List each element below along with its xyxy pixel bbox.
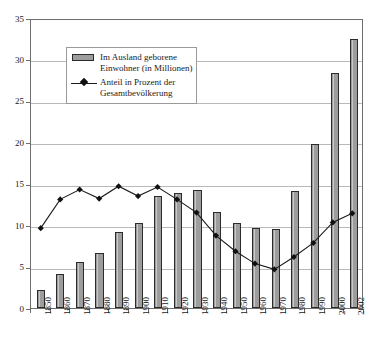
x-axis-tick-label-1990: 1990 bbox=[318, 297, 327, 315]
chart-container: 05101520253035 1850186018701880189019001… bbox=[0, 0, 369, 351]
x-axis-tick-label-1880: 1880 bbox=[103, 297, 112, 315]
y-axis-tick-label: 20 bbox=[2, 139, 24, 148]
x-axis-tick-label-1870: 1870 bbox=[83, 297, 92, 315]
x-axis-tick-label-1900: 1900 bbox=[142, 297, 151, 315]
x-axis-tick-label-1940: 1940 bbox=[220, 297, 229, 315]
x-axis-tick-label-1970: 1970 bbox=[279, 297, 288, 315]
y-axis-tick-label: 35 bbox=[2, 15, 24, 24]
legend-entry-bar: Im Ausland geborene Einwohner (in Millio… bbox=[71, 52, 193, 74]
line-marker-1860 bbox=[57, 196, 63, 202]
chart-legend: Im Ausland geborene Einwohner (in Millio… bbox=[66, 47, 197, 104]
line-marker-icon bbox=[71, 77, 97, 88]
legend-label-bar: Im Ausland geborene Einwohner (in Millio… bbox=[100, 52, 192, 74]
x-axis-tick-label-1860: 1860 bbox=[63, 297, 72, 315]
y-axis-tick-label: 5 bbox=[2, 263, 24, 272]
x-axis-tick-label-1980: 1980 bbox=[298, 297, 307, 315]
x-axis-tick-label-1890: 1890 bbox=[122, 297, 131, 315]
bar-swatch-icon bbox=[71, 52, 97, 63]
x-axis-tick-label-2000: 2000 bbox=[338, 297, 347, 315]
line-marker-1850 bbox=[38, 225, 44, 231]
line-marker-1920 bbox=[174, 196, 180, 202]
x-axis-tick-label-1850: 1850 bbox=[44, 297, 53, 315]
x-axis-tick-label-1950: 1950 bbox=[240, 297, 249, 315]
y-axis-tick-label: 0 bbox=[2, 305, 24, 314]
x-axis-tick-mark bbox=[30, 309, 31, 313]
percent-line-path bbox=[41, 186, 353, 269]
line-marker-1910 bbox=[154, 184, 160, 190]
y-axis-tick-label: 30 bbox=[2, 56, 24, 65]
y-axis-tick-label: 25 bbox=[2, 97, 24, 106]
x-axis-tick-label-1910: 1910 bbox=[161, 297, 170, 315]
line-marker-2002 bbox=[349, 210, 355, 216]
x-axis-tick-label-2002: 2002 bbox=[357, 297, 366, 315]
x-axis-tick-label-1930: 1930 bbox=[201, 297, 210, 315]
line-marker-1960 bbox=[252, 260, 258, 266]
line-marker-1900 bbox=[135, 193, 141, 199]
legend-entry-line: Anteil in Prozent der Gesamtbevölkerung bbox=[71, 77, 193, 99]
line-marker-1870 bbox=[77, 186, 83, 192]
x-axis-tick-label-1960: 1960 bbox=[259, 297, 268, 315]
line-marker-1880 bbox=[96, 195, 102, 201]
y-axis-tick-label: 15 bbox=[2, 180, 24, 189]
line-marker-1970 bbox=[271, 266, 277, 272]
x-axis-tick-label-1920: 1920 bbox=[181, 297, 190, 315]
y-axis-tick-label: 10 bbox=[2, 222, 24, 231]
legend-label-line: Anteil in Prozent der Gesamtbevölkerung bbox=[100, 77, 175, 99]
line-marker-1890 bbox=[116, 183, 122, 189]
